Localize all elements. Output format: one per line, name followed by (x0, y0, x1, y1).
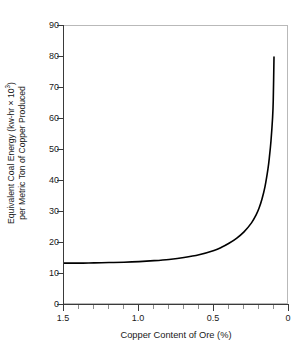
x-axis-minor-tick-mark (108, 305, 109, 309)
y-axis-tick-mark (57, 180, 63, 181)
x-axis-tick-label: 1.5 (57, 313, 70, 323)
y-axis-tick-mark (57, 25, 63, 26)
y-axis-spine (63, 25, 64, 305)
x-axis-tick-mark (288, 305, 289, 311)
y-axis-tick-mark (57, 149, 63, 150)
y-axis-tick-mark (57, 273, 63, 274)
x-axis-spine (63, 304, 289, 305)
x-axis-tick-label: 0.5 (207, 313, 220, 323)
x-axis-tick-mark (63, 305, 64, 311)
x-axis-minor-tick-mark (198, 305, 199, 309)
x-axis-title: Copper Content of Ore (%) (63, 330, 289, 340)
plot-area (63, 25, 288, 304)
x-axis-minor-tick-mark (123, 305, 124, 309)
y-axis-tick-mark (57, 242, 63, 243)
y-axis-title-line1: Equivalent Coal Energy (kw-hr × 10 (6, 88, 16, 223)
y-axis-tick-mark (57, 118, 63, 119)
x-axis-minor-tick-mark (153, 305, 154, 309)
x-axis-tick-label: 0 (285, 313, 290, 323)
y-axis-title-exponent: 3 (4, 84, 11, 88)
x-axis-tick-mark (138, 305, 139, 311)
x-axis-minor-tick-mark (183, 305, 184, 309)
chart-figure: Equivalent Coal Energy (kw-hr × 103) per… (0, 0, 301, 350)
x-axis-minor-tick-mark (228, 305, 229, 309)
y-axis-tick-mark (57, 56, 63, 57)
x-axis-minor-tick-mark (168, 305, 169, 309)
x-axis-tick-label: 1.0 (132, 313, 145, 323)
x-axis-minor-tick-mark (78, 305, 79, 309)
x-axis-tick-mark (213, 305, 214, 311)
y-axis-title-line2: per Metric Ton of Copper Produced (17, 82, 28, 224)
x-axis-minor-tick-mark (258, 305, 259, 309)
y-axis-title: Equivalent Coal Energy (kw-hr × 103) per… (0, 0, 34, 305)
y-axis-title-line1-tail: ) (6, 82, 16, 85)
y-axis-tick-labels: 0102030405060708090 (30, 0, 59, 350)
data-curve (64, 26, 289, 305)
x-axis-minor-tick-mark (93, 305, 94, 309)
x-axis-minor-tick-mark (273, 305, 274, 309)
y-axis-tick-mark (57, 87, 63, 88)
y-axis-tick-mark (57, 211, 63, 212)
x-axis-minor-tick-mark (243, 305, 244, 309)
